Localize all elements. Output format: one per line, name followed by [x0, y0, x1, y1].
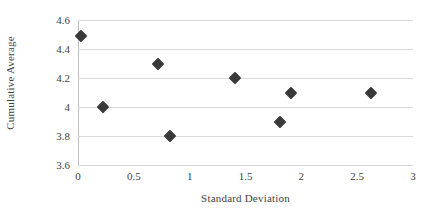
x-axis-tick-label: 1.5: [239, 170, 253, 182]
x-axis-tick-label: 1: [187, 170, 193, 182]
scatter-chart: Cumulative Average 3.63.844.24.44.6 00.5…: [0, 0, 434, 220]
x-axis-tick-labels: 00.511.522.53: [0, 0, 434, 220]
x-axis-tick-label: 2: [299, 170, 305, 182]
x-axis-tick-label: 2.5: [350, 170, 364, 182]
x-axis-tick-label: 0.5: [127, 170, 141, 182]
x-axis-tick-label: 0: [75, 170, 81, 182]
x-axis-tick-label: 3: [410, 170, 416, 182]
x-axis-title: Standard Deviation: [78, 192, 413, 204]
